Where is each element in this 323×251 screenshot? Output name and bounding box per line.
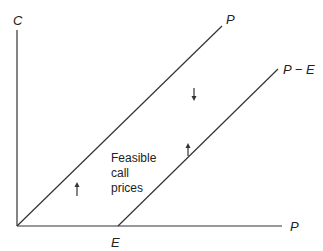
- upper-line-label: P: [226, 13, 235, 26]
- x-axis-label: P: [290, 220, 299, 233]
- x-tick-label: E: [111, 236, 120, 249]
- up-arrow-icon: [186, 143, 191, 156]
- region-text-line: prices: [111, 181, 156, 196]
- y-axis-label: C: [13, 14, 22, 27]
- region-text-line: call: [111, 166, 156, 181]
- down-arrow-icon: [192, 88, 197, 101]
- diagram-canvas: [0, 0, 323, 251]
- region-text-line: Feasible: [111, 151, 156, 166]
- up-arrow-icon: [75, 182, 80, 196]
- upper-bound-line: [17, 26, 222, 226]
- lower-bound-line: [118, 69, 278, 226]
- lower-line-label: P − E: [283, 63, 315, 76]
- feasible-region-label: Feasible call prices: [111, 151, 156, 196]
